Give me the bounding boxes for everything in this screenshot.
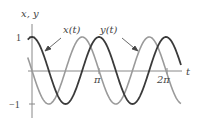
parametric-plot: x, y t x(t) y(t) π 2π 1 −1 [0, 0, 201, 123]
series-y-label: y(t) [99, 24, 118, 35]
x-tick-label-pi: π [93, 74, 101, 85]
x-tick-label-2pi: 2π [156, 74, 170, 85]
x-label-arrow [45, 38, 61, 51]
x-axis-label: t [186, 66, 191, 77]
series-x-label: x(t) [63, 24, 81, 35]
y-label-arrow [122, 38, 138, 51]
y-tick-label-neg1: −1 [9, 99, 20, 110]
y-axis-label: x, y [21, 8, 39, 19]
y-tick-label-1: 1 [16, 32, 21, 43]
